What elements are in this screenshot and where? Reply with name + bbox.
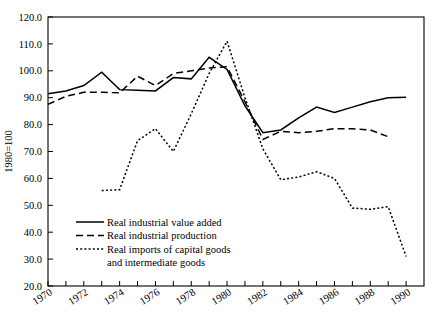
y-axis-title-text: 1980=100: [3, 130, 14, 173]
legend-label-3-line2: and intermediate goods: [107, 257, 205, 268]
x-tick-label: 1972: [66, 286, 90, 306]
series-line-2: [48, 67, 388, 140]
y-tick-label: 110.0: [19, 39, 42, 50]
y-tick-label: 90.0: [24, 92, 42, 103]
legend-label-2: Real industrial production: [107, 230, 217, 241]
x-tick-label: 1982: [245, 286, 269, 306]
y-axis-title: 1980=100: [3, 130, 14, 173]
x-tick-label: 1980: [209, 286, 233, 306]
y-tick-label: 60.0: [24, 173, 42, 184]
y-tick-label: 80.0: [24, 119, 42, 130]
series-group: [48, 41, 406, 256]
legend: Real industrial value addedReal industri…: [76, 217, 231, 269]
line-chart: 20.030.040.050.060.070.080.090.0100.0110…: [0, 0, 435, 322]
x-axis: 1970197219741976197819801982198419861988…: [30, 281, 412, 307]
y-tick-label: 120.0: [18, 12, 42, 23]
y-tick-label: 50.0: [24, 200, 42, 211]
y-tick-label: 40.0: [24, 227, 42, 238]
plot-frame: [48, 17, 424, 286]
legend-label-1: Real industrial value added: [107, 217, 222, 228]
x-tick-label: 1976: [138, 286, 162, 306]
legend-label-3: Real imports of capital goods: [107, 244, 231, 255]
x-tick-label: 1986: [317, 286, 341, 306]
x-tick-label: 1984: [281, 286, 305, 307]
x-tick-label: 1988: [353, 286, 377, 306]
y-tick-label: 70.0: [24, 146, 42, 157]
y-tick-label: 100.0: [18, 65, 42, 76]
x-tick-label: 1978: [174, 286, 198, 306]
chart-canvas: 20.030.040.050.060.070.080.090.0100.0110…: [0, 0, 435, 322]
x-tick-label: 1974: [102, 286, 126, 307]
x-tick-label: 1990: [389, 286, 413, 306]
y-tick-label: 20.0: [24, 281, 42, 292]
series-line-1: [48, 57, 406, 132]
y-tick-label: 30.0: [24, 254, 42, 265]
